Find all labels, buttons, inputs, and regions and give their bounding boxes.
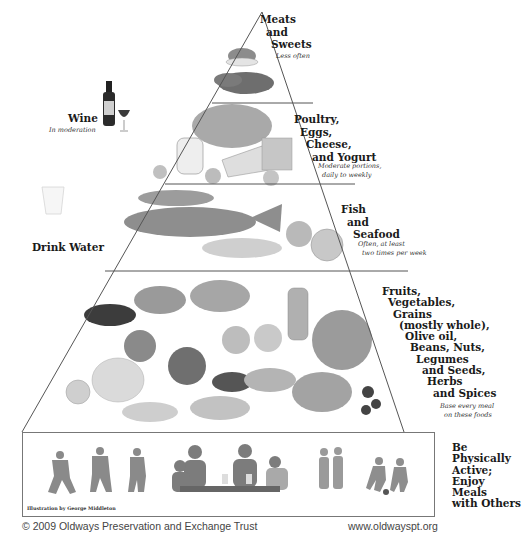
- label-line: Physically: [452, 453, 521, 464]
- tier-note-meats-sweets: Less often: [276, 52, 310, 61]
- bread-illustration: [312, 310, 372, 370]
- water-label: Drink Water: [32, 241, 104, 254]
- tier-label-fish: Fish and Seafood: [341, 203, 400, 241]
- water-glass-illustration: [42, 187, 64, 214]
- label-line: with Others: [452, 498, 521, 509]
- base-box: [23, 433, 435, 517]
- note-line: Less often: [276, 52, 310, 61]
- note-line: on these foods: [440, 411, 494, 420]
- wine-note: In moderation: [49, 126, 96, 135]
- tier-label-meats-sweets: Meats and Sweets: [260, 13, 312, 51]
- note-line: daily to weekly: [318, 171, 381, 180]
- tier-label-poultry: Poultry, Eggs, Cheese, and Yogurt: [294, 113, 376, 163]
- scallop-illustration: [311, 229, 343, 261]
- label-line: Vegetables,: [382, 297, 496, 308]
- note-line: Often, at least: [358, 240, 427, 249]
- yogurt-jar-illustration: [177, 138, 203, 174]
- olive-oil-bottle-illustration: [288, 288, 308, 340]
- wine-illustration: [103, 81, 130, 131]
- wine-label: Wine: [68, 112, 98, 125]
- note-line: Moderate portions,: [318, 162, 381, 171]
- tier-note-poultry: Moderate portions, daily to weekly: [318, 162, 381, 179]
- note-line: Base every meal: [440, 402, 494, 411]
- label-line: Meats: [260, 13, 312, 26]
- tier-note-plant-foods: Base every meal on these foods: [440, 402, 494, 419]
- label-line: Cheese,: [294, 138, 376, 151]
- label-line: Fish: [341, 203, 400, 216]
- base-label-activity: Be Physically Active; Enjoy Meals with O…: [452, 442, 521, 510]
- tier-note-fish: Often, at least two times per week: [358, 240, 427, 257]
- label-line: Herbs: [382, 376, 496, 387]
- pyramid-graphic: [0, 0, 525, 548]
- garlic-illustration: [66, 380, 90, 404]
- tier-label-plant-foods: Fruits, Vegetables, Grains (mostly whole…: [382, 286, 496, 399]
- tomato-illustration: [168, 347, 206, 385]
- clam-illustration: [286, 221, 312, 247]
- illustration-credit: Illustration by George Middleton: [27, 505, 116, 511]
- grapes-illustration: [92, 358, 144, 402]
- label-line: Seafood: [341, 228, 400, 241]
- label-line: Poultry,: [294, 113, 376, 126]
- shrimp-illustration: [202, 238, 282, 258]
- note-line: two times per week: [358, 249, 427, 258]
- label-line: Eggs,: [294, 126, 376, 139]
- label-line: and Spices: [382, 388, 496, 399]
- eggplant-illustration: [84, 304, 136, 326]
- fish-illustration: [138, 190, 214, 206]
- label-line: Sweets: [260, 38, 312, 51]
- label-line: and: [341, 216, 400, 229]
- roast-chicken-illustration: [192, 104, 272, 148]
- copyright-text: © 2009 Oldways Preservation and Exchange…: [22, 520, 257, 532]
- website-link[interactable]: www.oldwayspt.org: [348, 520, 438, 532]
- label-line: and: [260, 26, 312, 39]
